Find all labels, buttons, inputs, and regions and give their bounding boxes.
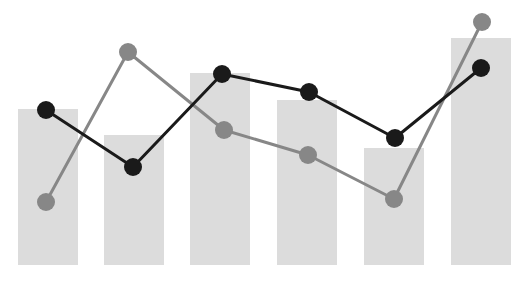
chart-container (0, 0, 532, 282)
dark-marker-5 (386, 129, 404, 147)
grey-marker-2 (119, 43, 137, 61)
bar-4 (277, 100, 337, 265)
grey-marker-1 (37, 193, 55, 211)
grey-marker-5 (385, 190, 403, 208)
dark-marker-1 (37, 101, 55, 119)
dark-marker-3 (213, 65, 231, 83)
dark-marker-4 (300, 83, 318, 101)
grey-marker-6 (473, 13, 491, 31)
bar-3 (190, 73, 250, 265)
combo-bar-line-chart (0, 0, 532, 282)
bar-1 (18, 109, 78, 265)
dark-marker-2 (124, 158, 142, 176)
dark-marker-6 (472, 59, 490, 77)
grey-marker-4 (299, 146, 317, 164)
grey-marker-3 (215, 121, 233, 139)
